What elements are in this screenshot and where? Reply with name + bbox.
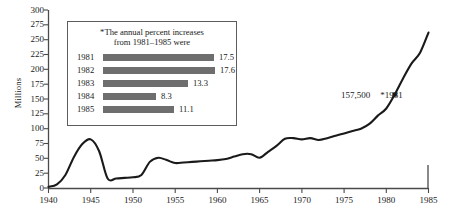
annotation-1981-value: 157,500 — [341, 90, 370, 100]
inset-bar-value: 8.3 — [161, 92, 172, 101]
inset-bar-row: 1982 17.6 — [68, 64, 236, 77]
inset-bar-year: 1981 — [77, 53, 103, 62]
inset-bar-year: 1984 — [77, 92, 103, 101]
x-tick-label: 1980 — [366, 196, 406, 205]
annotation-1981-note: *1981 — [380, 90, 403, 100]
x-tick-label: 1985 — [409, 196, 449, 205]
inset-bar-value: 17.5 — [219, 53, 234, 62]
chart-figure: Millions 300 275 250 225 200 175 150 125… — [0, 0, 453, 218]
x-tick-label: 1945 — [71, 196, 111, 205]
inset-panel: *The annual percent increases from 1981–… — [67, 21, 237, 126]
x-tick-label: 1940 — [29, 196, 69, 205]
annotation-1981: 157,500*1981 — [341, 90, 403, 100]
inset-title: *The annual percent increases from 1981–… — [68, 22, 236, 47]
inset-bar-row: 1981 17.5 — [68, 51, 236, 64]
inset-bar-fill — [103, 106, 174, 113]
inset-bar-value: 13.3 — [193, 79, 208, 88]
inset-bar-value: 17.6 — [220, 66, 235, 75]
inset-bar-fill — [103, 93, 156, 100]
inset-bar-year: 1982 — [77, 66, 103, 75]
x-tick-label: 1950 — [113, 196, 153, 205]
x-tick-label: 1970 — [282, 196, 322, 205]
inset-bar-list: 1981 17.5 1982 17.6 1983 13.3 1984 8.3 1… — [68, 51, 236, 116]
inset-bar-fill — [103, 80, 188, 87]
inset-bar-row: 1985 11.1 — [68, 103, 236, 116]
inset-bar-value: 11.1 — [179, 105, 194, 114]
inset-bar-row: 1983 13.3 — [68, 77, 236, 90]
x-tick-label: 1955 — [155, 196, 195, 205]
inset-bar-row: 1984 8.3 — [68, 90, 236, 103]
inset-bar-fill — [103, 54, 214, 61]
inset-bar-year: 1985 — [77, 105, 103, 114]
inset-bar-fill — [103, 67, 215, 74]
x-tick-label: 1965 — [240, 196, 280, 205]
x-tick-label: 1975 — [324, 196, 364, 205]
inset-bar-year: 1983 — [77, 79, 103, 88]
x-tick-label: 1960 — [197, 196, 237, 205]
